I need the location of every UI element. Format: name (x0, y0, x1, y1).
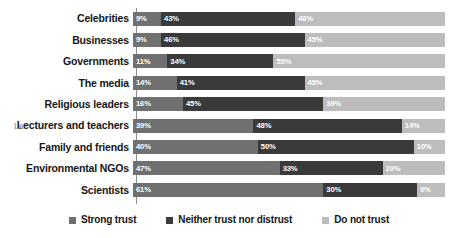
bar-segment-1: 46% (161, 33, 305, 47)
chart-row: Religious leaders16%45%39% (0, 94, 458, 115)
legend-label: Neither trust nor distrust (178, 215, 292, 225)
legend-item-0[interactable]: Strong trust (69, 215, 136, 225)
bar-segment-0: 9% (133, 33, 161, 47)
stacked-bar: 61%30%9% (133, 183, 445, 197)
bar-segment-1: 50% (258, 140, 414, 154)
segment-value-label: 9% (133, 15, 147, 23)
bar-segment-2: 9% (417, 183, 445, 197)
segment-value-label: 43% (161, 15, 179, 23)
category-label: Environmental NGOs (0, 163, 133, 174)
chart-row: Environmental NGOs47%33%20% (0, 158, 458, 179)
segment-value-label: 40% (133, 143, 151, 151)
segment-value-label: 16% (133, 100, 151, 108)
chart-row: LeLecturers and teachers39%48%14% (0, 115, 458, 136)
bar-segment-2: 20% (383, 161, 445, 175)
legend-label: Do not trust (334, 215, 389, 225)
segment-value-label: 61% (133, 186, 151, 194)
segment-value-label: 14% (402, 122, 420, 130)
segment-value-label: 34% (167, 58, 185, 66)
legend-swatch-icon (69, 217, 76, 224)
bar-segment-0: 14% (133, 76, 177, 90)
stacked-bar: 16%45%39% (133, 97, 445, 111)
segment-value-label: 50% (258, 143, 276, 151)
segment-value-label: 9% (133, 36, 147, 44)
segment-value-label: 39% (133, 122, 151, 130)
chart-row: Scientists61%30%9% (0, 179, 458, 200)
stacked-bar: 9%46%45% (133, 33, 445, 47)
segment-value-label: 14% (133, 79, 151, 87)
segment-value-label: 48% (253, 122, 271, 130)
stacked-bar: 47%33%20% (133, 161, 445, 175)
bar-segment-0: 39% (133, 119, 253, 133)
chart-row: Celebrities9%43%48% (0, 8, 458, 29)
bar-segment-0: 11% (133, 54, 167, 68)
bar-segment-1: 30% (323, 183, 417, 197)
segment-value-label: 45% (183, 100, 201, 108)
bar-segment-1: 34% (167, 54, 273, 68)
bar-segment-1: 41% (177, 76, 305, 90)
category-label: The media (0, 78, 133, 89)
chart-row: Businesses9%46%45% (0, 29, 458, 50)
bar-segment-1: 43% (161, 12, 295, 26)
ghost-text-artifact: Le (14, 121, 24, 130)
legend-item-1[interactable]: Neither trust nor distrust (166, 215, 292, 225)
segment-value-label: 47% (133, 165, 151, 173)
bar-segment-1: 48% (253, 119, 401, 133)
chart-row: Governments11%34%55% (0, 51, 458, 72)
bar-segment-0: 47% (133, 161, 280, 175)
segment-value-label: 30% (323, 186, 341, 194)
stacked-bar: 11%34%55% (133, 54, 445, 68)
segment-value-label: 41% (177, 79, 195, 87)
stacked-bar: 39%48%14% (133, 119, 445, 133)
stacked-bar-chart: Celebrities9%43%48%Businesses9%46%45%Gov… (0, 0, 458, 238)
category-label: Businesses (0, 35, 133, 46)
segment-value-label: 11% (133, 58, 150, 66)
category-label: Scientists (0, 185, 133, 196)
segment-value-label: 45% (305, 79, 323, 87)
segment-value-label: 46% (161, 36, 179, 44)
bar-segment-1: 33% (280, 161, 383, 175)
bar-segment-2: 39% (323, 97, 445, 111)
legend-swatch-icon (322, 217, 329, 224)
stacked-bar: 9%43%48% (133, 12, 445, 26)
bar-segment-2: 14% (402, 119, 445, 133)
legend-swatch-icon (166, 217, 173, 224)
bar-segment-2: 10% (414, 140, 445, 154)
category-label: Family and friends (0, 142, 133, 153)
segment-value-label: 45% (305, 36, 323, 44)
bar-segment-0: 40% (133, 140, 258, 154)
plot-area: Celebrities9%43%48%Businesses9%46%45%Gov… (0, 8, 458, 204)
bar-segment-0: 9% (133, 12, 161, 26)
segment-value-label: 39% (323, 100, 341, 108)
category-label: Celebrities (0, 13, 133, 24)
chart-row: Family and friends40%50%10% (0, 136, 458, 157)
category-label: Religious leaders (0, 99, 133, 110)
bar-segment-2: 45% (305, 76, 445, 90)
bar-segment-2: 45% (305, 33, 445, 47)
chart-legend: Strong trustNeither trust nor distrustDo… (0, 208, 458, 232)
bar-segment-0: 16% (133, 97, 183, 111)
bar-segment-2: 55% (273, 54, 445, 68)
segment-value-label: 48% (295, 15, 313, 23)
legend-label: Strong trust (81, 215, 136, 225)
chart-row: The media14%41%45% (0, 72, 458, 93)
segment-value-label: 10% (414, 143, 432, 151)
segment-value-label: 33% (280, 165, 298, 173)
legend-item-2[interactable]: Do not trust (322, 215, 389, 225)
bar-segment-1: 45% (183, 97, 323, 111)
bar-segment-2: 48% (295, 12, 445, 26)
bar-segment-0: 61% (133, 183, 323, 197)
category-label: Governments (0, 56, 133, 67)
stacked-bar: 14%41%45% (133, 76, 445, 90)
segment-value-label: 55% (273, 58, 291, 66)
segment-value-label: 20% (383, 165, 401, 173)
segment-value-label: 9% (417, 186, 431, 194)
stacked-bar: 40%50%10% (133, 140, 445, 154)
